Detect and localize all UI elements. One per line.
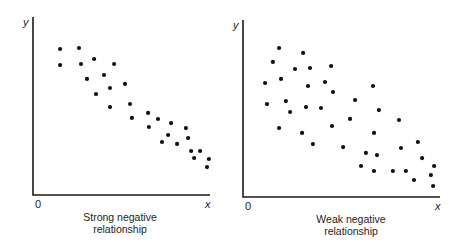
data-point — [146, 111, 150, 115]
data-point — [166, 133, 170, 137]
scatter-panel-strong: y 0 x Strong negative relationship — [22, 16, 211, 235]
data-point — [58, 47, 62, 51]
origin-label-weak: 0 — [245, 200, 251, 212]
data-point — [416, 140, 420, 144]
data-point — [323, 80, 327, 84]
data-point — [156, 117, 160, 121]
data-point — [308, 66, 312, 70]
data-point — [207, 157, 211, 161]
data-point — [375, 153, 379, 157]
data-point — [277, 126, 281, 130]
data-point — [412, 178, 416, 182]
data-point — [330, 124, 334, 128]
data-point — [186, 136, 190, 140]
data-point — [123, 82, 127, 86]
origin-label-strong: 0 — [35, 198, 41, 210]
data-point — [184, 126, 188, 130]
data-point — [279, 77, 283, 81]
data-point — [397, 118, 401, 122]
caption-strong-line1: Strong negative — [83, 211, 157, 223]
data-point — [284, 99, 288, 103]
data-point — [169, 121, 173, 125]
x-axis-label-strong: x — [204, 198, 211, 210]
caption-weak-line2: relationship — [324, 225, 378, 237]
data-point — [288, 110, 292, 114]
caption-weak-line1: Weak negative — [316, 213, 385, 225]
data-point — [160, 140, 164, 144]
scatter-figure: y 0 x Strong negative relationship y 0 x… — [0, 0, 471, 244]
data-point — [130, 116, 134, 120]
data-point — [431, 184, 435, 188]
data-point — [372, 169, 376, 173]
data-point — [329, 64, 333, 68]
data-point — [301, 51, 305, 55]
data-point — [271, 60, 275, 64]
data-point — [404, 169, 408, 173]
data-point — [175, 142, 179, 146]
data-point — [311, 142, 315, 146]
data-point — [399, 146, 403, 150]
data-point — [265, 102, 269, 106]
data-point — [112, 62, 116, 66]
data-point — [94, 92, 98, 96]
data-point — [420, 156, 424, 160]
data-point — [77, 46, 81, 50]
data-point — [306, 84, 310, 88]
y-axis-label-weak: y — [232, 19, 240, 31]
data-point — [371, 84, 375, 88]
data-point — [58, 63, 62, 67]
data-point — [377, 108, 381, 112]
points-weak — [263, 46, 436, 188]
data-point — [432, 164, 436, 168]
x-axis-label-weak: x — [434, 200, 441, 212]
data-point — [205, 165, 209, 169]
data-point — [192, 156, 196, 160]
y-axis-label-strong: y — [22, 16, 30, 28]
data-point — [198, 149, 202, 153]
data-point — [293, 67, 297, 71]
data-point — [92, 57, 96, 61]
data-point — [319, 106, 323, 110]
axes-strong — [33, 17, 210, 195]
data-point — [429, 173, 433, 177]
data-point — [102, 73, 106, 77]
data-point — [348, 117, 352, 121]
data-point — [391, 169, 395, 173]
data-point — [341, 145, 345, 149]
data-point — [277, 46, 281, 50]
data-point — [372, 131, 376, 135]
data-point — [147, 125, 151, 129]
data-point — [331, 90, 335, 94]
data-point — [304, 105, 308, 109]
data-point — [108, 105, 112, 109]
data-point — [85, 77, 89, 81]
data-point — [108, 86, 112, 90]
data-point — [263, 81, 267, 85]
data-point — [128, 102, 132, 106]
data-point — [364, 151, 368, 155]
caption-strong-line2: relationship — [93, 223, 147, 235]
axes-weak — [243, 20, 440, 197]
data-point — [300, 131, 304, 135]
data-point — [79, 62, 83, 66]
data-point — [353, 98, 357, 102]
data-point — [359, 164, 363, 168]
data-point — [189, 149, 193, 153]
scatter-panel-weak: y 0 x Weak negative relationship — [232, 19, 441, 237]
points-strong — [58, 46, 211, 169]
